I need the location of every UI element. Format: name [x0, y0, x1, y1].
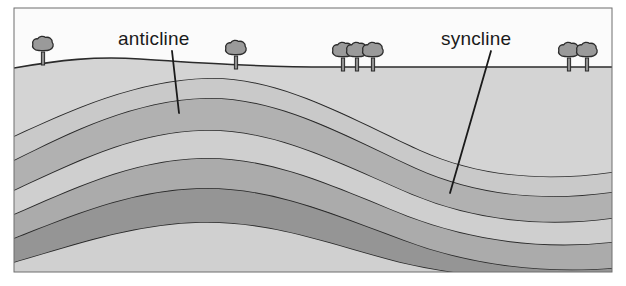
syncline-label: syncline: [441, 29, 511, 48]
figure-canvas: anticline syncline: [0, 0, 626, 286]
anticline-label: anticline: [118, 29, 190, 48]
geologic-cross-section-diagram: [0, 0, 626, 286]
